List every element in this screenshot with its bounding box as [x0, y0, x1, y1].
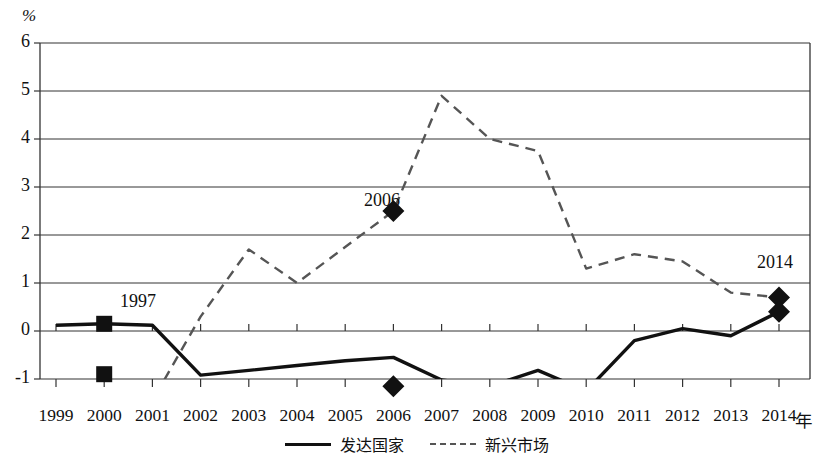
marker-square	[96, 366, 112, 382]
series-line-emerging	[56, 96, 779, 456]
x-axis-tick-label: 2006	[370, 405, 416, 426]
y-axis-tick-label: 1	[2, 271, 30, 292]
chart-plot-area	[0, 0, 833, 462]
legend-swatch-dashed-line	[430, 443, 476, 445]
annotation-label: 2014	[757, 252, 793, 273]
legend-label-emerging: 新兴市场	[485, 432, 549, 456]
annotation-label: 2006	[364, 190, 400, 211]
x-axis-tick-label: 2009	[515, 405, 561, 426]
x-axis-tick-label: 2013	[708, 405, 754, 426]
x-axis-tick-label: 2005	[322, 405, 368, 426]
x-axis-tick-label: 2000	[81, 405, 127, 426]
x-axis-tick-label: 2011	[611, 405, 657, 426]
x-axis-tick-label: 1999	[33, 405, 79, 426]
y-axis-tick-label: 5	[2, 79, 30, 100]
x-axis-tick-label: 2004	[274, 405, 320, 426]
y-axis-tick-label: 2	[2, 223, 30, 244]
x-axis-title: 年	[795, 407, 812, 432]
data-series-layer	[56, 96, 779, 456]
x-axis-tick-label: 2008	[467, 405, 513, 426]
y-axis-ticks-group	[34, 43, 40, 379]
y-axis-tick-label: 3	[2, 175, 30, 196]
legend-entry-emerging: 新兴市场	[430, 432, 549, 456]
marker-diamond	[768, 301, 790, 323]
legend-label-developed: 发达国家	[340, 432, 404, 456]
y-axis-tick-label: 6	[2, 31, 30, 52]
chart-legend: 发达国家 新兴市场	[0, 432, 833, 456]
x-axis-tick-label: 2007	[419, 405, 465, 426]
chart-container: % -10123456 1999200020012002200320042005…	[0, 0, 833, 462]
y-axis-tick-label: 4	[2, 127, 30, 148]
x-axis-tick-label: 2002	[178, 405, 224, 426]
highlight-markers-layer	[96, 200, 790, 397]
marker-square	[96, 316, 112, 332]
x-axis-tick-label: 2003	[226, 405, 272, 426]
y-axis-tick-label: 0	[2, 319, 30, 340]
y-axis-tick-label: -1	[2, 367, 30, 388]
legend-swatch-solid-line	[285, 443, 331, 446]
legend-entry-developed: 发达国家	[285, 432, 404, 456]
x-axis-tick-label: 2010	[563, 405, 609, 426]
x-axis-tick-label: 2012	[660, 405, 706, 426]
annotation-label: 1997	[120, 291, 156, 312]
x-axis-tick-label: 2001	[129, 405, 175, 426]
